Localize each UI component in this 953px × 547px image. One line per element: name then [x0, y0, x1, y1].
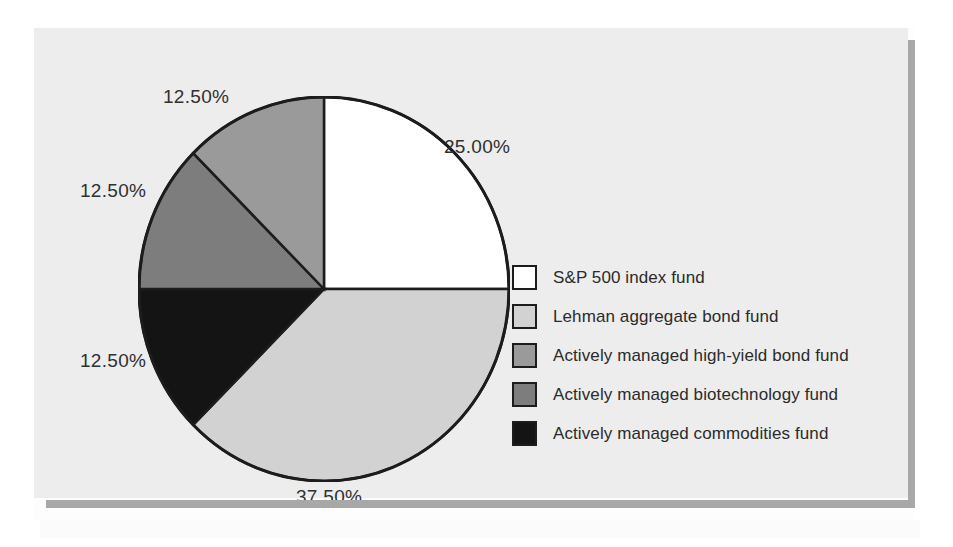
legend-label-lehman: Lehman aggregate bond fund — [553, 307, 779, 327]
legend-item-biotechnology[interactable]: Actively managed biotechnology fund — [512, 375, 912, 414]
legend-item-lehman[interactable]: Lehman aggregate bond fund — [512, 297, 912, 336]
legend-swatch-biotechnology — [512, 382, 537, 407]
page-root: 25.00% 37.50% 12.50% 12.50% 12.50% S&P 5… — [0, 0, 953, 547]
legend-item-sp500[interactable]: S&P 500 index fund — [512, 258, 912, 297]
pie-label-high-yield-percent: 12.50% — [163, 86, 229, 108]
legend-label-sp500: S&P 500 index fund — [553, 268, 705, 288]
legend-label-biotechnology: Actively managed biotechnology fund — [553, 385, 838, 405]
pie-label-commodities-percent: 12.50% — [80, 350, 146, 372]
pie-label-biotechnology-percent: 12.50% — [80, 180, 146, 202]
legend-swatch-lehman — [512, 304, 537, 329]
chart-legend: S&P 500 index fund Lehman aggregate bond… — [512, 258, 912, 453]
legend-label-commodities: Actively managed commodities fund — [553, 424, 828, 444]
scan-artifact-band — [40, 520, 920, 538]
legend-swatch-commodities — [512, 421, 537, 446]
pie-slice-sp500[interactable] — [324, 97, 509, 289]
panel-shadow-right — [908, 40, 915, 508]
pie-label-sp500-percent: 25.00% — [444, 136, 510, 158]
panel-shadow-bottom — [46, 500, 915, 508]
legend-item-commodities[interactable]: Actively managed commodities fund — [512, 414, 912, 453]
legend-item-high-yield[interactable]: Actively managed high-yield bond fund — [512, 336, 912, 375]
legend-swatch-high-yield — [512, 343, 537, 368]
legend-label-high-yield: Actively managed high-yield bond fund — [553, 346, 849, 366]
legend-swatch-sp500 — [512, 265, 537, 290]
chart-panel: 25.00% 37.50% 12.50% 12.50% 12.50% S&P 5… — [34, 28, 908, 498]
